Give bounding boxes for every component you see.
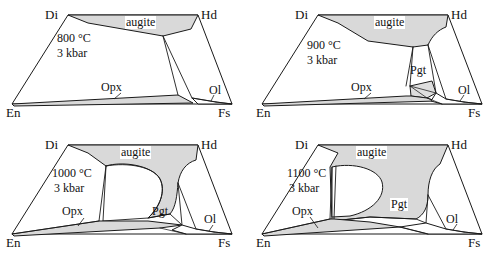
pressure-label-1100c: 3 kbar: [289, 181, 319, 196]
temperature-label-900c: 900 °C: [307, 38, 341, 53]
temperature-label-1100c: 1100 °C: [287, 166, 326, 181]
field-label-ol-900c: Ol: [458, 84, 470, 97]
pyroxene-quadrilateral-figure: Di Hd En Fs 800 °C 3 kbar augite Opx Ol: [0, 0, 501, 259]
field-label-augite-900c: augite: [374, 16, 405, 29]
corner-label-en-900c: En: [256, 106, 270, 120]
phase-diagram-panel-800c: Di Hd En Fs 800 °C 3 kbar augite Opx Ol: [0, 0, 250, 129]
pressure-label-1000c: 3 kbar: [54, 181, 84, 196]
corner-label-en-1100c: En: [256, 236, 270, 250]
corner-label-fs-1100c: Fs: [468, 236, 480, 250]
corner-label-fs-900c: Fs: [468, 106, 480, 120]
field-label-augite-1100c: augite: [356, 146, 387, 159]
field-label-pgt-900c: Pgt: [410, 64, 426, 77]
corner-label-en-1000c: En: [6, 236, 20, 250]
corner-label-hd-1100c: Hd: [451, 138, 467, 152]
corner-label-en-800c: En: [6, 106, 20, 120]
field-label-augite-800c: augite: [125, 16, 156, 29]
field-label-opx-900c: Opx: [351, 81, 372, 94]
corner-label-fs-800c: Fs: [218, 106, 230, 120]
corner-label-di-800c: Di: [45, 8, 58, 22]
field-label-ol-800c: Ol: [209, 84, 221, 97]
phase-diagram-panel-1100c: Di Hd En Fs 1100 °C 3 kbar augite Pgt Op…: [250, 129, 501, 259]
phase-diagram-panel-900c: Di Hd En Fs 900 °C 3 kbar augite Pgt Opx…: [250, 0, 501, 129]
corner-label-hd-1000c: Hd: [201, 138, 217, 152]
temperature-label-800c: 800 °C: [57, 31, 91, 46]
field-label-opx-800c: Opx: [101, 81, 122, 94]
corner-label-hd-800c: Hd: [201, 8, 217, 22]
corner-label-hd-900c: Hd: [451, 8, 467, 22]
corner-label-di-900c: Di: [295, 8, 308, 22]
field-label-ol-1000c: Ol: [204, 213, 216, 226]
phase-diagram-panel-1000c: Di Hd En Fs 1000 °C 3 kbar augite Pgt Op…: [0, 129, 250, 259]
field-label-pgt-1000c: Pgt: [152, 205, 168, 218]
field-label-opx-1000c: Opx: [62, 205, 83, 218]
corner-label-di-1000c: Di: [45, 138, 58, 152]
corner-label-di-1100c: Di: [295, 138, 308, 152]
field-label-augite-1000c: augite: [120, 146, 151, 159]
pressure-label-800c: 3 kbar: [57, 46, 87, 61]
field-label-opx-1100c: Opx: [292, 205, 313, 218]
temperature-label-1000c: 1000 °C: [52, 166, 92, 181]
pressure-label-900c: 3 kbar: [307, 53, 337, 68]
corner-label-fs-1000c: Fs: [218, 236, 230, 250]
field-label-pgt-1100c: Pgt: [390, 198, 408, 211]
field-label-ol-1100c: Ol: [446, 213, 458, 226]
